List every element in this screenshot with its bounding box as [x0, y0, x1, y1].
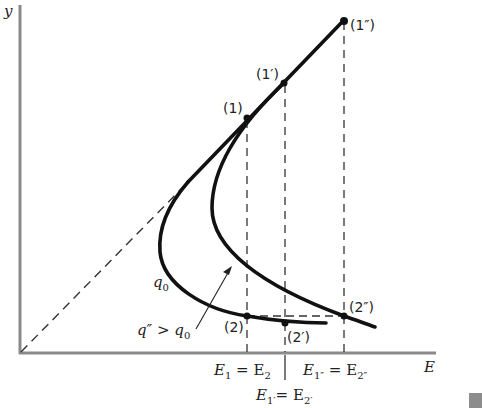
qpp-arrow-head [223, 266, 232, 275]
point-1 [244, 115, 251, 122]
y-axis-label: y [3, 2, 13, 20]
label-point-1p: (1′) [256, 66, 279, 82]
point-2pp [341, 313, 348, 320]
point-1pp [340, 17, 348, 25]
point-2 [244, 313, 251, 320]
label-point-1: (1) [223, 100, 243, 116]
curve-qpp [212, 83, 375, 327]
point-1p [281, 80, 288, 87]
label-qpp-gt-q0: q″ > q0 [137, 321, 190, 341]
diagram-canvas: y E (1) (1′) (1″) (2) (2′) (2″) q0 q″ > … [0, 0, 482, 408]
label-e1pp-eq-e2pp: E1″ = E2″ [302, 361, 367, 381]
label-point-2pp: (2″) [349, 299, 374, 315]
label-e1p-eq-e2p: E1′= E2′ [255, 386, 313, 406]
label-point-2p: (2′) [287, 329, 310, 345]
label-e1-eq-e2: E1 = E2 [213, 361, 271, 381]
label-point-2: (2) [224, 319, 244, 335]
curve-q0 [160, 182, 326, 323]
label-q0: q0 [153, 273, 169, 293]
x-axis-label: E [423, 358, 435, 376]
point-2p [282, 320, 289, 327]
end-marker-square [469, 393, 482, 408]
label-point-1pp: (1″) [350, 17, 375, 33]
